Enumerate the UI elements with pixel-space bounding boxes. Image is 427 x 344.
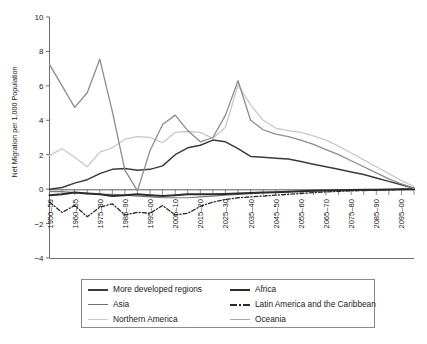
series-line-northern-america xyxy=(50,85,415,187)
x-tick-label: 2035–40 xyxy=(247,199,256,229)
figure-container: Net Migration per 1,000 Population −4−20… xyxy=(0,0,427,344)
x-tick-label: 1960–65 xyxy=(71,199,80,229)
y-tick-label: 2 xyxy=(39,151,44,160)
x-axis-tick-labels: 1950–591960–651975–801985–901995–002005–… xyxy=(46,199,407,229)
x-tick-label: 2085–90 xyxy=(372,199,381,229)
x-tick-label: 1985–90 xyxy=(121,199,130,229)
x-tick-label: 1950–59 xyxy=(46,199,55,229)
legend-item-oceania[interactable]: Oceania xyxy=(230,315,382,324)
legend-label: Northern America xyxy=(113,315,178,324)
x-tick-label: 2075–80 xyxy=(347,199,356,229)
x-tick-label: 1995–00 xyxy=(146,199,155,229)
x-tick-label: 2095–00 xyxy=(397,199,406,229)
y-tick-label: 4 xyxy=(39,116,44,125)
x-tick-label: 2065–70 xyxy=(322,199,331,229)
legend-item-more-developed-regions[interactable]: More developed regions xyxy=(88,285,230,294)
legend-label: Oceania xyxy=(255,315,286,324)
x-tick-label: 2055–60 xyxy=(297,199,306,229)
y-tick-label: −4 xyxy=(34,254,44,263)
y-tick-label: 6 xyxy=(39,82,44,91)
y-tick-label: 0 xyxy=(39,185,44,194)
y-axis-label-text: Net Migration per 1,000 Population xyxy=(10,66,19,177)
legend-item-latin-america-and-the-caribbean[interactable]: Latin America and the Caribbean xyxy=(230,300,382,309)
series-line-oceania xyxy=(50,59,415,191)
legend-label: Latin America and the Caribbean xyxy=(255,300,376,309)
y-tick-label: −2 xyxy=(34,220,44,229)
y-tick-label: 8 xyxy=(39,47,44,56)
x-tick-label: 1975–80 xyxy=(96,199,105,229)
legend-item-africa[interactable]: Africa xyxy=(230,285,382,294)
series-lines xyxy=(50,59,415,217)
x-tick-label: 2015–20 xyxy=(196,199,205,229)
legend-label: Asia xyxy=(113,300,129,309)
y-axis-label: Net Migration per 1,000 Population xyxy=(10,66,19,177)
x-tick-label: 2025–30 xyxy=(221,199,230,229)
x-tick-label: 2005–10 xyxy=(171,199,180,229)
legend-item-asia[interactable]: Asia xyxy=(88,300,230,309)
legend-grid: More developed regionsAfricaAsiaLatin Am… xyxy=(82,280,374,327)
legend: More developed regionsAfricaAsiaLatin Am… xyxy=(81,279,375,328)
x-tick-label: 2045–50 xyxy=(272,199,281,229)
legend-label: Africa xyxy=(255,285,276,294)
y-tick-label: 10 xyxy=(35,13,44,22)
legend-item-northern-america[interactable]: Northern America xyxy=(88,315,230,324)
legend-label: More developed regions xyxy=(113,285,202,294)
